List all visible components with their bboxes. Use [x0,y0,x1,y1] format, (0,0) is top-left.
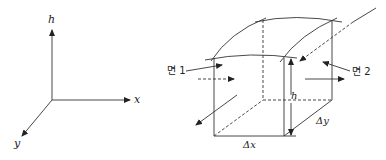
face1-label: 면 1 [167,66,186,76]
y-flow-line-back [353,8,376,22]
dy-label: Δy [316,116,329,126]
face1-pointer [186,65,222,71]
dx-label: Δx [243,140,256,150]
coordinate-axes [22,30,130,136]
hidden-bottom-left-diagonal [214,100,263,136]
diagram-drawing [0,0,386,160]
y-axis [22,100,52,136]
flow-arrows [186,8,376,135]
h-axis-label: h [48,14,55,25]
x-axis-label: x [134,94,140,105]
control-volume-diagram: h x y 면 1 면 2 h Δx Δy [0,0,386,160]
face2-label: 면 2 [352,67,371,77]
face2-pointer [323,62,350,71]
height-label: h [291,91,297,101]
y-axis-label: y [14,138,20,149]
y-flow-arrow-front [196,95,237,125]
y-flow-arrow-back [300,22,353,61]
